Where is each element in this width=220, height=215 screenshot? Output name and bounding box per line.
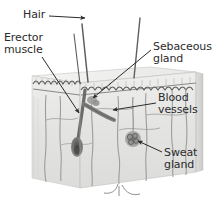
label-hair: Hair (23, 9, 45, 21)
label-blood-vessels: Blood vessels (158, 92, 198, 115)
block-front-face (32, 76, 80, 188)
label-erector-muscle: Erector muscle (4, 32, 43, 55)
label-sweat-gland: Sweat gland (164, 147, 197, 170)
blood-vessel-branches-base (104, 184, 140, 196)
leader-hair (49, 16, 85, 18)
label-sebaceous-gland: Sebaceous gland (153, 41, 212, 64)
skin-anatomy-figure: Hair Erector muscle Sebaceous gland Bloo… (0, 0, 220, 215)
